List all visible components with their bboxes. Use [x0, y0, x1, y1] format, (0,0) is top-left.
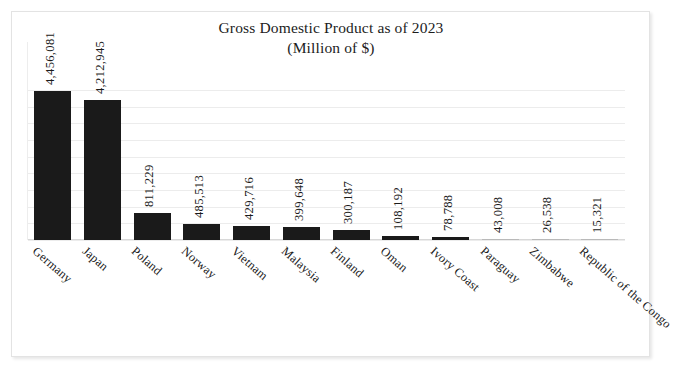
- bar[interactable]: [581, 239, 618, 240]
- bar[interactable]: [432, 237, 469, 240]
- bar[interactable]: [283, 227, 320, 240]
- bar-series: 4,456,0814,212,945811,229485,513429,7163…: [28, 40, 625, 240]
- category-label-text: Germany: [29, 244, 75, 286]
- bar[interactable]: [84, 100, 121, 240]
- bar[interactable]: [34, 91, 71, 240]
- bar-slot: 15,321: [575, 40, 625, 240]
- bar[interactable]: [333, 230, 370, 240]
- bar-value-text: 4,212,945: [93, 41, 108, 94]
- category-label-text: Vietnam: [228, 244, 271, 284]
- bar-value-text: 43,008: [491, 196, 506, 232]
- bar-slot: 26,538: [526, 40, 576, 240]
- bar[interactable]: [233, 226, 270, 240]
- category-label-text: Finland: [328, 244, 367, 281]
- bar[interactable]: [532, 239, 569, 240]
- bar-slot: 43,008: [476, 40, 526, 240]
- bar-value-text: 108,192: [391, 187, 406, 230]
- bar-slot: 4,212,945: [78, 40, 128, 240]
- category-label-text: Japan: [79, 244, 111, 274]
- bar-slot: 811,229: [128, 40, 178, 240]
- bar-value-text: 811,229: [142, 164, 157, 207]
- category-label-text: Paraguay: [477, 244, 523, 287]
- bar-slot: 485,513: [177, 40, 227, 240]
- gridline: [28, 240, 625, 241]
- bar-value-text: 485,513: [192, 175, 207, 218]
- bar-slot: 300,187: [327, 40, 377, 240]
- bar[interactable]: [183, 224, 220, 240]
- category-label-text: Oman: [377, 244, 410, 276]
- bar-slot: 78,788: [426, 40, 476, 240]
- bar-value-text: 300,187: [341, 181, 356, 224]
- bar-value-text: 429,716: [242, 177, 257, 220]
- bar-slot: 108,192: [376, 40, 426, 240]
- bar-value-text: 15,321: [590, 196, 605, 232]
- category-label-text: Poland: [129, 244, 166, 279]
- bar[interactable]: [382, 236, 419, 240]
- bar-value-text: 4,456,081: [43, 32, 58, 85]
- bar-slot: 4,456,081: [28, 40, 78, 240]
- bar-value-text: 26,538: [540, 196, 555, 232]
- category-label-text: Ivory Coast: [427, 244, 482, 295]
- bar[interactable]: [482, 239, 519, 240]
- bar[interactable]: [134, 213, 171, 240]
- bar-value-text: 399,648: [292, 178, 307, 221]
- category-label-text: Malaysia: [278, 244, 323, 286]
- bar-slot: 429,716: [227, 40, 277, 240]
- category-label-text: Norway: [178, 244, 219, 282]
- category-axis-labels: GermanyJapanPolandNorwayVietnamMalaysiaF…: [28, 244, 625, 354]
- chart-title-line1: Gross Domestic Product as of 2023: [219, 19, 444, 36]
- bar-value-text: 78,788: [441, 195, 456, 231]
- category-label-text: Zimbabwe: [527, 244, 578, 291]
- bar-slot: 399,648: [277, 40, 327, 240]
